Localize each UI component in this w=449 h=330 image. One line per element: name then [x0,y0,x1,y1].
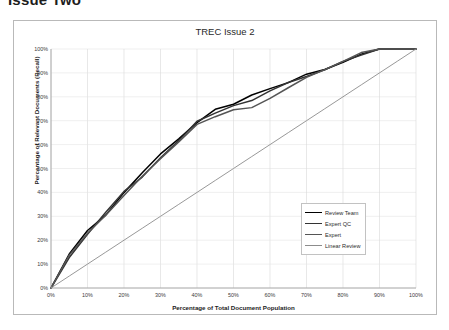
legend-swatch-icon [305,245,322,246]
y-tick-label: 20% [37,237,48,243]
x-tick-label: 60% [265,292,276,298]
legend-label: Expert [325,232,341,238]
x-tick-label: 10% [82,292,93,298]
chart-legend: Review TeamExpert QCExpertLinear Review [301,203,366,255]
legend-label: Expert QC [325,221,351,227]
x-tick-label: 80% [338,292,349,298]
page-heading: Issue Two [8,0,81,8]
legend-label: Review Team [325,210,358,216]
x-tick-label: 40% [192,292,203,298]
legend-label: Linear Review [325,243,360,249]
legend-item[interactable]: Review Team [305,207,360,218]
legend-item[interactable]: Expert QC [305,218,360,229]
x-tick-label: 50% [228,292,239,298]
x-tick-label: 90% [374,292,385,298]
y-tick-label: 10% [37,261,48,267]
legend-swatch-icon [305,212,322,213]
y-tick-label: 0% [40,285,48,291]
legend-item[interactable]: Linear Review [305,240,360,251]
y-tick-label: 70% [37,118,48,124]
x-tick-label: 20% [119,292,130,298]
x-tick-label: 100% [409,292,423,298]
chart-figure: TREC Issue 2 Percentage of Relevant Docu… [13,20,437,315]
legend-swatch-icon [305,223,322,224]
y-tick-label: 30% [37,213,48,219]
x-tick-label: 0% [47,292,55,298]
y-tick-label: 90% [37,70,48,76]
legend-item[interactable]: Expert [305,229,360,240]
y-tick-label: 60% [37,142,48,148]
x-tick-label: 30% [155,292,166,298]
x-tick-label: 70% [301,292,312,298]
legend-swatch-icon [305,234,322,235]
chart-title: TREC Issue 2 [14,26,436,37]
x-axis-title: Percentage of Total Document Population [51,304,416,311]
y-tick-label: 100% [34,46,48,52]
y-tick-label: 50% [37,166,48,172]
y-tick-label: 80% [37,94,48,100]
y-tick-label: 40% [37,189,48,195]
